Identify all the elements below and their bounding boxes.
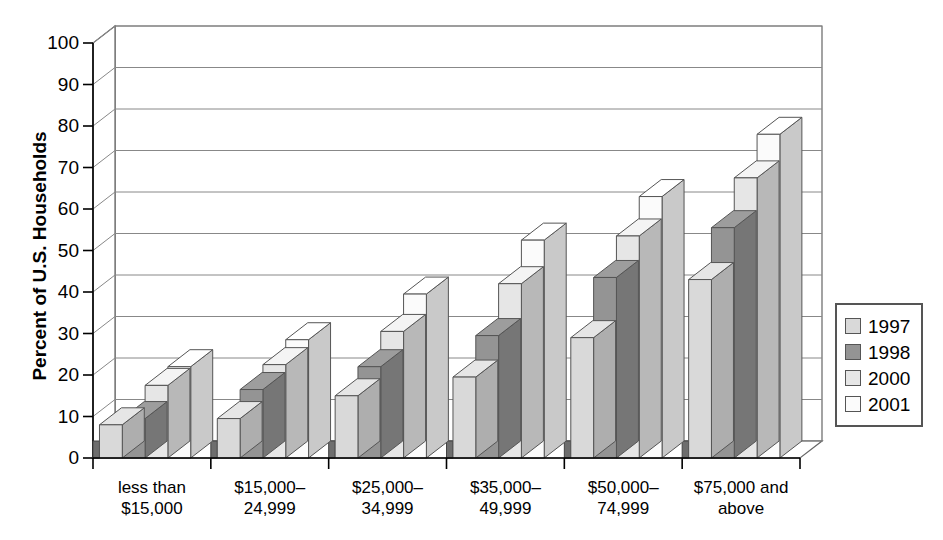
y-axis-tick-label: 90 <box>35 74 79 96</box>
y-axis-tick-label: 80 <box>35 115 79 137</box>
legend-item[interactable]: 1998 <box>845 339 921 365</box>
y-axis-tick-label: 0 <box>35 447 79 469</box>
legend-item[interactable]: 1997 <box>845 313 921 339</box>
chart-legend: 1997199820002001 <box>835 303 923 427</box>
legend-swatch-icon <box>845 396 861 412</box>
bar-chart: Percent of U.S. Households 0102030405060… <box>0 0 943 540</box>
y-axis-tick-label: 70 <box>35 157 79 179</box>
category-axis <box>93 458 800 469</box>
y-axis-tick-label: 60 <box>35 198 79 220</box>
bar <box>571 321 616 458</box>
y-axis-tick-label: 20 <box>35 364 79 386</box>
y-axis-tick-label: 50 <box>35 240 79 262</box>
legend-item-label: 1998 <box>868 343 910 362</box>
legend-item[interactable]: 2001 <box>845 391 921 417</box>
y-axis-tick-label: 100 <box>35 32 79 54</box>
legend-swatch-icon <box>845 318 861 334</box>
bar <box>689 263 734 458</box>
bar <box>335 379 380 458</box>
legend-item-label: 2001 <box>868 395 910 414</box>
legend-item-label: 1997 <box>868 317 910 336</box>
legend-swatch-icon <box>845 344 861 360</box>
bar <box>453 360 498 458</box>
plot-area <box>0 0 943 540</box>
legend-swatch-icon <box>845 370 861 386</box>
x-axis-category-label: $75,000 and above <box>672 477 810 520</box>
value-axis <box>83 43 93 458</box>
y-axis-tick-label: 30 <box>35 323 79 345</box>
y-axis-tick-label: 10 <box>35 406 79 428</box>
legend-item-label: 2000 <box>868 369 910 388</box>
legend-item[interactable]: 2000 <box>845 365 921 391</box>
y-axis-tick-label: 40 <box>35 281 79 303</box>
